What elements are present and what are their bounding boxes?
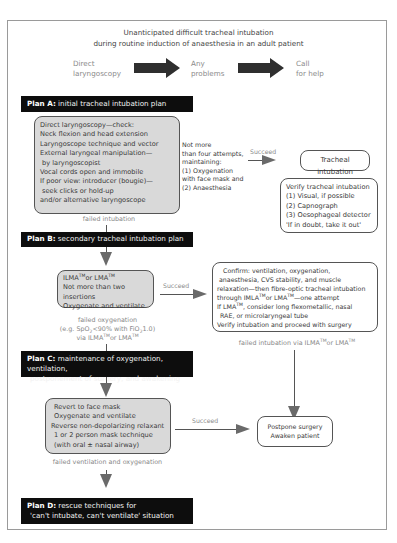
tracheal-intubation-box: Tracheal intubation [300,150,370,171]
note-line: maintaining: [182,158,244,167]
verify-line: (2) Capnograph [286,202,372,211]
arrow-right-icon [262,155,276,165]
flow-step-line: for help [296,69,324,79]
plan-d-line-1: Plan D: rescue techniques for [27,501,187,511]
text-part: (e.g. SpO [60,325,90,333]
arrow-down-icon [100,383,112,397]
box-line: If poor view: introducer (bougie)— [40,177,174,186]
confirm-line: If LMATM, consider long flexometallic, n… [217,302,373,311]
box-line: Neck flexion and head extension [40,130,174,139]
succeed-label: Succeed [250,148,276,155]
plan-a-box: Direct laryngoscopy—check: Neck flexion … [34,116,180,214]
note-line: Not more [182,141,244,150]
box-line: ILMATMor LMATM [63,274,148,283]
text-part: or LMA [266,294,288,301]
flow-step-direct-laryngoscopy: Direct laryngoscopy [73,59,121,79]
plan-d-banner: Plan D: rescue techniques for 'can't int… [21,498,193,524]
confirm-line: through IMLATMor LMATM—one attempt [217,293,373,302]
connector-line [175,429,239,430]
confirm-box: Confirm: ventilation, oxygenation, anaes… [212,262,378,332]
lma-text: or LMA [85,274,108,282]
text-part: —one attempt [294,294,339,301]
title-line-2: during routine induction of anaesthesia … [0,39,397,50]
box-line: by laryngoscopist [40,159,174,168]
plan-b-text: secondary tracheal intubation plan [58,234,184,243]
succeed-label: Succeed [163,282,189,289]
failed-ventilation-label: failed ventilation and oxygenation [40,458,175,467]
label-line: failed oxygenation [30,316,185,325]
plan-b-banner: Plan B: secondary tracheal intubation pl… [21,232,193,247]
text-part: , consider long flexometallic, nasal [243,303,352,310]
confirm-line: RAE, or microlaryngeal tube [217,311,373,320]
arrow-right-icon [193,289,207,299]
connector-line [160,294,196,295]
flow-step-line: laryngoscopy [73,69,121,79]
box-line: (with oral ± nasal airway) [51,441,165,450]
text-part: failed intubation via ILMA [239,339,320,347]
postpone-line: Awaken patient [260,431,330,440]
succeed-label: Succeed [192,417,218,424]
plan-c-banner: Plan C: maintenance of oxygenation, vent… [21,351,193,377]
connector-line [106,344,107,351]
label-line: via ILMATMor LMATM [30,334,185,343]
plan-c-heading: Plan C: [27,354,55,363]
flow-step-line: problems [191,69,224,79]
postpone-line: Postpone surgery [260,422,330,431]
text-part: or LMA [110,334,132,342]
plan-a-banner: Plan A: initial tracheal intubation plan [21,96,193,112]
text-part: 1.0) [143,325,156,333]
tm-mark: TM [132,332,139,337]
box-line: Revert to face mask [51,403,165,412]
postpone-surgery-box: Postpone surgery Awaken patient [257,416,333,447]
verify-line: Verify tracheal intubation [286,183,372,192]
box-line: Reverse non-depolarizing relaxant [51,422,165,431]
tm-mark: TM [320,338,327,343]
failed-intubation-via-ilma-label: failed intubation via ILMATMor LMATM [222,339,372,348]
box-line: 1 or 2 person mask technique [51,431,165,440]
tm-mark: TM [259,293,266,298]
confirm-line: anaesthesia, CVS stability, and muscle [217,275,373,284]
tm-mark: TM [287,293,294,298]
plan-d-line-2: 'can't intubate, can't ventilate' situat… [27,511,187,521]
confirm-line: Verify intubation and proceed with surge… [217,320,373,329]
title-line-1: Unanticipated difficult tracheal intubat… [0,28,397,39]
tm-mark: TM [349,338,356,343]
tm-mark: TM [236,302,243,307]
big-arrow-icon [134,58,182,78]
box-line: Laryngoscope technique and vector [40,140,174,149]
note-line: (2) Anaesthesia [182,184,244,193]
plan-c-box: Revert to face mask Oxygenate and ventil… [45,398,171,454]
flow-step-line: Direct [73,59,121,69]
big-arrow-icon [238,58,286,78]
box-line: Vocal cords open and immobile [40,168,174,177]
box-line: Direct laryngoscopy—check: [40,121,174,130]
verify-intubation-box: Verify tracheal intubation (1) Visual, i… [280,178,378,233]
failed-intubation-label: failed intubation [54,215,164,224]
arrow-down-icon [100,252,112,266]
note-line: than four attempts, [182,150,244,159]
arrow-right-icon [236,424,250,434]
plan-a-heading: Plan A: [27,99,56,108]
verify-line: (3) Oesophageal detector [286,211,372,220]
note-line: (1) Oxygenation [182,167,244,176]
tm-mark: TM [103,332,110,337]
plan-c-line-1: Plan C: maintenance of oxygenation, vent… [27,354,187,374]
flow-step-line: Any [191,59,224,69]
box-line: and/or alternative laryngoscope [40,196,174,205]
plan-d-text: rescue techniques for [58,501,136,510]
confirm-line: relaxation—then fibre-optic tracheal int… [217,284,373,293]
connector-line [294,350,295,412]
box-line: seek clicks or hold-up [40,187,174,196]
flow-step-any-problems: Any problems [191,59,224,79]
plan-b-box: ILMATMor LMATM Not more than two inserti… [57,270,154,308]
box-line: Not more than two insertions [63,283,148,302]
plan-d-heading: Plan D: [27,501,56,510]
text-part: through IMLA [217,294,259,301]
tm-mark: TM [108,273,115,278]
chart-title: Unanticipated difficult tracheal intubat… [0,28,397,49]
confirm-line: Confirm: ventilation, oxygenation, [217,266,373,275]
plan-b-heading: Plan B: [27,234,56,243]
arrow-down-icon [100,474,112,488]
plan-a-text: initial tracheal intubation plan [58,99,166,108]
box-line: Oxygenate and ventilate [51,412,165,421]
